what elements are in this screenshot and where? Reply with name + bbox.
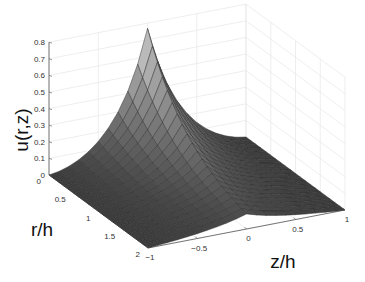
u-tick-label: 0.8 [34,38,46,47]
u-tick-label: 0.4 [34,105,46,114]
r-tick-label: 0 [37,177,42,186]
z-tick-label: −1 [145,253,155,262]
z-h-axis-label: z/h [270,251,295,272]
u-tick-label: 0.5 [34,88,46,97]
r-tick-label: 0.5 [55,195,67,204]
u-tick-label: 0.1 [34,154,46,163]
r-axis-label: r/h [31,219,53,240]
u-tick-label: 0 [41,171,46,180]
z-axis-label: u(r,z) [11,108,32,151]
u-tick-label: 0.6 [34,71,46,80]
r-tick-label: 1.5 [104,232,116,241]
z-tick-label: 1 [345,215,350,224]
r-tick-label: 1 [86,214,91,223]
z-tick-label: 0 [246,234,251,243]
u-tick-label: 0.2 [34,138,46,147]
surface-plot: 00.10.20.30.40.50.60.70.800.511.52−1−0.5… [0,0,365,282]
u-tick-label: 0.3 [34,121,46,130]
u-tick-label: 0.7 [34,55,46,64]
r-tick-label: 2 [136,250,141,259]
z-tick-label: 0.5 [292,225,304,234]
z-tick-label: −0.5 [191,244,207,253]
